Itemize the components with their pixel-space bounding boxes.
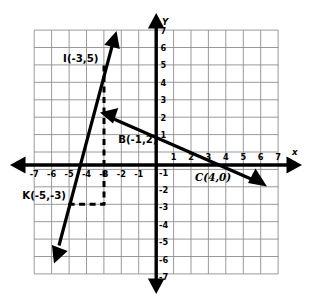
y-tick-label: -3 <box>159 202 168 212</box>
x-tick-label: -5 <box>65 169 74 179</box>
point-label-K: K(-5,-3) <box>22 190 66 201</box>
y-tick-label: 1 <box>161 130 167 140</box>
y-tick-label: 3 <box>161 95 167 105</box>
y-tick-label: -4 <box>159 220 168 230</box>
y-tick-label: -2 <box>159 185 168 195</box>
line-IK-arrow-up-right <box>104 31 120 49</box>
x-tick-label: -6 <box>47 169 56 179</box>
y-axis <box>148 13 165 294</box>
y-tick-label: 5 <box>161 60 167 70</box>
y-tick-label: 7 <box>161 26 167 36</box>
x-tick-label: 4 <box>223 152 229 162</box>
y-tick-label: 4 <box>161 78 167 88</box>
x-axis-arrow-right <box>287 157 303 174</box>
x-tick-label: 5 <box>240 152 246 162</box>
line-IK-body <box>59 45 113 246</box>
x-axis-arrow-left <box>10 157 26 174</box>
x-tick-label: -7 <box>30 169 39 179</box>
line-IK <box>52 31 120 264</box>
x-tick-label: -2 <box>117 169 126 179</box>
point-label-C: C(4,0) <box>195 171 231 183</box>
point-label-B: B(-1,2) <box>118 134 157 145</box>
x-tick-label: 6 <box>258 152 264 162</box>
line-BC-body <box>112 118 255 181</box>
x-axis-label: x <box>291 147 298 157</box>
axis-labels: Y x <box>162 17 298 158</box>
y-tick-label: -7 <box>159 272 168 282</box>
y-axis-tick-labels: 7 6 5 4 3 2 1 -1 -2 -3 -4 -5 -6 -7 <box>159 26 168 283</box>
x-tick-label: -3 <box>99 169 108 179</box>
line-IK-arrow-down-left <box>52 245 68 264</box>
x-tick-label: 3 <box>206 152 212 162</box>
x-tick-label: 7 <box>275 152 281 162</box>
x-tick-label: 2 <box>188 152 194 162</box>
point-label-I: I(-3,5) <box>63 53 98 64</box>
point-labels: I(-3,5) B(-1,2) K(-5,-3) C(4,0) <box>22 53 231 201</box>
x-tick-label: -1 <box>134 169 143 179</box>
line-BC-arrow-down-right <box>248 169 267 187</box>
x-tick-label: -4 <box>82 169 91 179</box>
coordinate-plane-svg: -7 -6 -5 -4 -3 -2 -1 1 2 3 4 5 6 7 7 6 5… <box>0 0 311 300</box>
y-axis-label: Y <box>162 17 169 27</box>
y-tick-label: 2 <box>161 113 167 123</box>
coordinate-plane-figure: -7 -6 -5 -4 -3 -2 -1 1 2 3 4 5 6 7 7 6 5… <box>0 0 311 300</box>
y-tick-label: -6 <box>159 255 168 265</box>
y-tick-label: -5 <box>159 237 168 247</box>
y-tick-label: -1 <box>159 168 168 178</box>
y-tick-label: 6 <box>161 43 167 53</box>
x-tick-label: 1 <box>171 152 177 162</box>
